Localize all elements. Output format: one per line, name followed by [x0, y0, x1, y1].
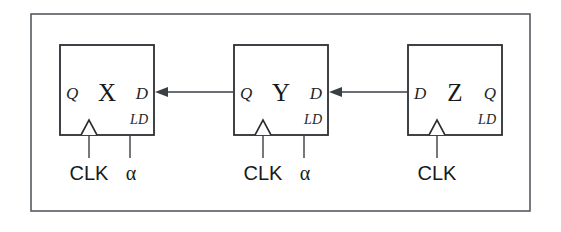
- ff-y-left-port-label: Q: [240, 84, 252, 103]
- ff-z-clock-input-label: CLK: [418, 162, 458, 184]
- ff-z-right-port-label: Q: [484, 84, 496, 103]
- ff-x-left-port-label: Q: [66, 84, 78, 103]
- ff-z-left-port-label: D: [413, 84, 427, 103]
- ff-y-load-input-label: α: [300, 162, 311, 184]
- figure-root: Q X D LD CLK α Q Y D LD CLK α: [0, 0, 561, 232]
- ff-y-enable-label: LD: [303, 112, 322, 127]
- ff-x-clock-input-label: CLK: [70, 162, 110, 184]
- ff-y-clock-input-label: CLK: [244, 162, 284, 184]
- ff-x-right-port-label: D: [135, 84, 149, 103]
- ff-z-name-label: Z: [447, 79, 462, 106]
- schematic-canvas: Q X D LD CLK α Q Y D LD CLK α: [0, 0, 561, 232]
- ff-x-enable-label: LD: [129, 112, 148, 127]
- ff-x-load-input-label: α: [126, 162, 137, 184]
- ff-y-right-port-label: D: [309, 84, 323, 103]
- ff-z-enable-label: LD: [477, 112, 496, 127]
- ff-x-name-label: X: [98, 79, 116, 106]
- ff-y-name-label: Y: [272, 79, 290, 106]
